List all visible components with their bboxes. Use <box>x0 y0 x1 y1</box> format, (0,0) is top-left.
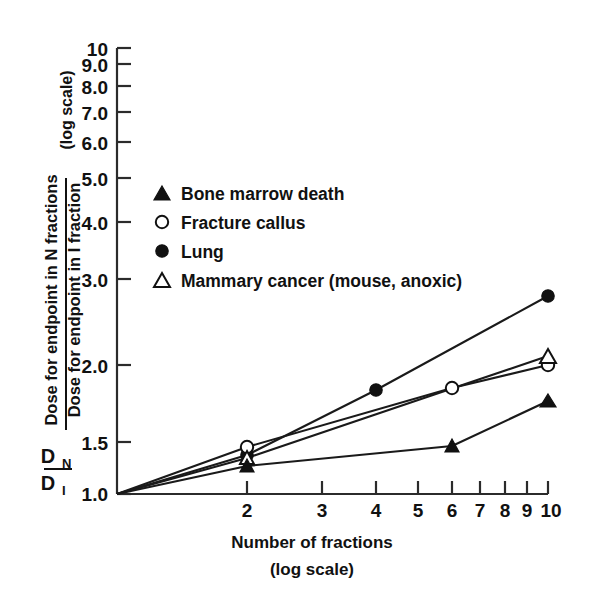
ratio-numerator-symbol: D <box>41 445 55 467</box>
y-axis-denominator: Dose for endpoint in I fraction <box>65 183 83 418</box>
x-tick-label: 4 <box>371 500 382 521</box>
chart-svg: 10 9.0 8.0 7.0 6.0 5.0 4.0 3.0 2.0 1.5 1… <box>0 0 590 594</box>
filled-circle-icon <box>156 245 168 257</box>
y-tick-label: 4.0 <box>82 213 108 234</box>
y-axis-ticks <box>117 48 131 494</box>
legend-label: Fracture callus <box>181 213 306 233</box>
x-tick-label: 7 <box>475 500 486 521</box>
legend-item-bone-marrow-death: Bone marrow death <box>154 184 344 204</box>
data-point-fracture-callus <box>446 382 458 394</box>
x-tick-label: 3 <box>317 500 328 521</box>
y-axis-numerator: Dose for endpoint in N fractions <box>42 174 60 425</box>
y-tick-label: 1.0 <box>82 484 108 505</box>
markers-bone-marrow-death <box>240 394 556 472</box>
chart-figure: 10 9.0 8.0 7.0 6.0 5.0 4.0 3.0 2.0 1.5 1… <box>0 0 590 594</box>
legend-item-fracture-callus: Fracture callus <box>156 213 306 233</box>
legend-item-lung: Lung <box>156 242 224 262</box>
data-point-mammary-cancer <box>540 349 556 363</box>
y-tick-label: 3.0 <box>82 270 108 291</box>
x-tick-label: 5 <box>413 500 424 521</box>
y-axis-tick-labels: 10 9.0 8.0 7.0 6.0 5.0 4.0 3.0 2.0 1.5 1… <box>82 39 109 505</box>
chart-legend: Bone marrow death Fracture callus Lung M… <box>154 184 462 291</box>
y-tick-label: 2.0 <box>82 356 108 377</box>
x-axis-subtitle: (log scale) <box>270 560 354 579</box>
x-axis-ticks <box>247 481 548 494</box>
series-line-bone-marrow-death <box>117 401 548 494</box>
y-axis-scale-note: (log scale) <box>58 70 75 149</box>
open-triangle-icon <box>154 273 170 287</box>
x-tick-label: 10 <box>540 500 561 521</box>
series-line-lung <box>117 296 548 494</box>
x-tick-label: 6 <box>447 500 458 521</box>
y-tick-label: 7.0 <box>82 103 108 124</box>
x-tick-label: 8 <box>500 500 511 521</box>
filled-triangle-icon <box>154 186 170 200</box>
legend-label: Lung <box>181 242 224 262</box>
x-axis-tick-labels: 2 3 4 5 6 7 8 9 10 <box>242 500 562 521</box>
open-circle-icon <box>156 216 168 228</box>
data-point-lung <box>542 290 554 302</box>
y-tick-label: 9.0 <box>82 55 108 76</box>
x-tick-label: 9 <box>522 500 533 521</box>
data-point-lung <box>370 384 382 396</box>
data-point-bone-marrow-death <box>540 394 556 407</box>
y-axis-title-group: Dose for endpoint in N fractions Dose fo… <box>42 70 83 430</box>
legend-label: Bone marrow death <box>181 184 344 204</box>
ratio-denominator-subscript: I <box>62 483 66 498</box>
x-axis-title: Number of fractions <box>231 533 393 552</box>
x-tick-label: 2 <box>242 500 253 521</box>
legend-item-mammary-cancer: Mammary cancer (mouse, anoxic) <box>154 271 462 291</box>
series-line-mammary-cancer <box>117 356 548 494</box>
y-tick-label: 8.0 <box>82 77 108 98</box>
y-tick-label: 1.5 <box>82 433 109 454</box>
y-tick-label: 5.0 <box>82 169 108 190</box>
legend-label: Mammary cancer (mouse, anoxic) <box>181 271 462 291</box>
y-axis-ratio-symbol: D N D I <box>41 445 72 498</box>
ratio-denominator-symbol: D <box>41 472 55 494</box>
y-tick-label: 6.0 <box>82 133 108 154</box>
